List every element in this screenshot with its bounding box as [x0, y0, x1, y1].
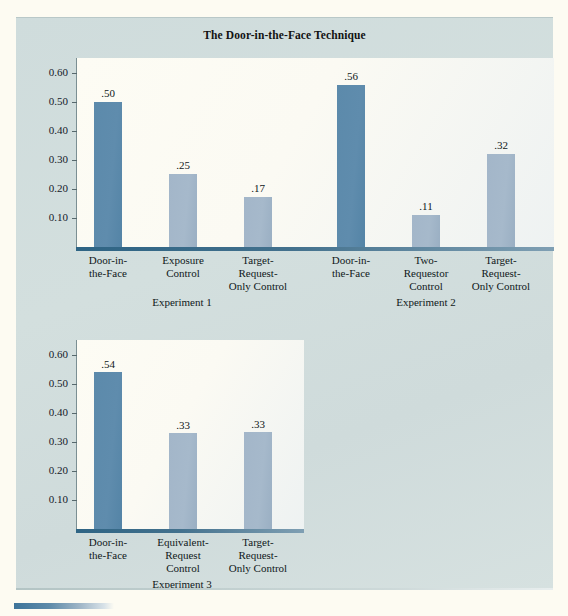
- y-tick-label-b-5: 0.10: [32, 493, 68, 505]
- bar-value-e3-2: .33: [233, 418, 283, 430]
- x-label-line: Equivalent-: [157, 536, 208, 548]
- y-tick-0.20-b: [72, 471, 77, 472]
- y-tick-label-1: 0.50: [32, 95, 68, 107]
- x-label-e2-1: Two- Requestor Control: [386, 254, 466, 293]
- y-tick-0.40: [72, 131, 77, 132]
- x-label-line: the-Face: [89, 549, 127, 561]
- x-label-line: Target-: [242, 254, 273, 266]
- x-label-line: Door-in-: [332, 254, 370, 266]
- x-label-line: Request: [165, 549, 200, 561]
- x-label-line: Control: [166, 562, 200, 574]
- x-label-line: Only Control: [229, 280, 287, 292]
- x-label-line: Request-: [238, 267, 277, 279]
- y-tick-0.40-b: [72, 413, 77, 414]
- baseline-top: [76, 247, 554, 251]
- y-tick-label-b-3: 0.30: [32, 435, 68, 447]
- x-label-line: Control: [409, 280, 443, 292]
- y-tick-0.20: [72, 189, 77, 190]
- y-tick-0.30-b: [72, 442, 77, 443]
- x-label-line: Exposure: [162, 254, 204, 266]
- bar-e1-target-request-only-control: [244, 197, 272, 247]
- y-tick-0.10-b: [72, 500, 77, 501]
- bar-e3-equivalent-request-control: [169, 433, 197, 529]
- baseline-bottom: [76, 529, 304, 533]
- y-tick-0.60-b: [72, 355, 77, 356]
- y-tick-label-b-0: 0.60: [32, 348, 68, 360]
- bar-value-e1-0: .50: [83, 87, 133, 99]
- x-label-line: Target-: [242, 536, 273, 548]
- x-label-e1-2: Target- Request- Only Control: [214, 254, 302, 293]
- x-label-line: Target-: [485, 254, 516, 266]
- x-label-line: Control: [166, 267, 200, 279]
- bar-value-e1-1: .25: [158, 159, 208, 171]
- y-tick-0.60: [72, 73, 77, 74]
- figure-panel: The Door-in-the-Face Technique 0.60 0.50…: [16, 17, 553, 590]
- x-label-line: the-Face: [332, 267, 370, 279]
- plot-area-top: [76, 58, 554, 247]
- chart-panel-bottom: 0.60 0.50 0.40 0.30 0.20 0.10 .54 .33 .3…: [54, 340, 304, 590]
- bar-value-e3-0: .54: [83, 358, 133, 370]
- x-label-e3-0: Door-in- the-Face: [68, 536, 148, 562]
- bar-e3-door-in-the-face: [94, 372, 122, 529]
- accent-bar: [14, 603, 114, 609]
- x-label-line: the-Face: [89, 267, 127, 279]
- bar-value-e3-1: .33: [158, 419, 208, 431]
- x-label-line: Only Control: [472, 280, 530, 292]
- x-label-line: Door-in-: [89, 254, 127, 266]
- bar-value-e2-0: .56: [326, 70, 376, 82]
- y-tick-0.50: [72, 102, 77, 103]
- y-tick-0.10: [72, 218, 77, 219]
- y-tick-label-b-4: 0.20: [32, 464, 68, 476]
- x-label-line: Request-: [481, 267, 520, 279]
- bar-value-e1-2: .17: [233, 182, 283, 194]
- y-tick-label-2: 0.40: [32, 124, 68, 136]
- panel-caption-experiment-2: Experiment 2: [356, 296, 496, 308]
- y-tick-label-5: 0.10: [32, 211, 68, 223]
- y-tick-0.30: [72, 160, 77, 161]
- x-label-e1-1: Exposure Control: [143, 254, 223, 280]
- x-label-line: Door-in-: [89, 536, 127, 548]
- panel-caption-experiment-1: Experiment 1: [112, 296, 252, 308]
- bar-e1-door-in-the-face: [94, 102, 122, 247]
- bar-e2-door-in-the-face: [337, 85, 365, 247]
- y-tick-label-0: 0.60: [32, 66, 68, 78]
- bar-value-e2-1: .11: [401, 200, 451, 212]
- x-label-line: Requestor: [404, 267, 449, 279]
- y-tick-0.50-b: [72, 384, 77, 385]
- x-label-line: Only Control: [229, 562, 287, 574]
- bar-value-e2-2: .32: [476, 139, 526, 151]
- chart-panel-top: 0.60 0.50 0.40 0.30 0.20 0.10 .50 .25 .1…: [54, 58, 534, 323]
- panel-caption-experiment-3: Experiment 3: [112, 578, 252, 590]
- x-label-e2-0: Door-in- the-Face: [311, 254, 391, 280]
- y-tick-label-b-2: 0.40: [32, 406, 68, 418]
- page-title: The Door-in-the-Face Technique: [16, 29, 553, 41]
- x-label-line: Request-: [238, 549, 277, 561]
- bar-e3-target-request-only-control: [244, 432, 272, 529]
- bar-e2-target-request-only-control: [487, 154, 515, 247]
- bar-e2-two-requestor-control: [412, 215, 440, 247]
- bar-e1-exposure-control: [169, 174, 197, 247]
- x-label-e1-0: Door-in- the-Face: [68, 254, 148, 280]
- y-tick-label-4: 0.20: [32, 182, 68, 194]
- y-tick-label-3: 0.30: [32, 153, 68, 165]
- x-label-e3-1: Equivalent- Request Control: [141, 536, 225, 575]
- x-label-e2-2: Target- Request- Only Control: [457, 254, 545, 293]
- y-tick-label-b-1: 0.50: [32, 377, 68, 389]
- x-label-line: Two-: [414, 254, 437, 266]
- x-label-e3-2: Target- Request- Only Control: [214, 536, 302, 575]
